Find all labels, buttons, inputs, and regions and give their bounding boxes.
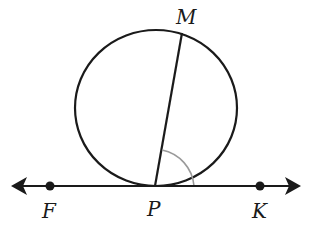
label-k: K [251, 199, 268, 223]
diagram-canvas: M F P K [0, 0, 309, 228]
point-k [256, 182, 265, 191]
angle-arc-mpk [162, 150, 194, 186]
circle [75, 30, 237, 186]
label-p: P [146, 197, 161, 221]
point-f [46, 182, 55, 191]
chord-pm [155, 33, 182, 186]
label-f: F [41, 199, 57, 223]
geometry-diagram: M F P K [0, 0, 309, 228]
label-m: M [175, 5, 197, 29]
